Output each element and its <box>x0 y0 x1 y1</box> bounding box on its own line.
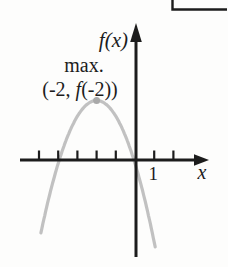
parabola-figure: f(x) max. (-2, f(-2)) 1 x <box>0 0 227 267</box>
axis-arrowheads <box>130 23 209 166</box>
x-axis-label: x <box>197 161 207 183</box>
x-tick-label-1: 1 <box>148 163 158 184</box>
max-annotation-line1: max. <box>64 54 103 76</box>
y-axis-arrowhead <box>130 23 142 42</box>
function-graph: f(x) max. (-2, f(-2)) 1 x <box>0 0 227 267</box>
axes <box>20 36 198 257</box>
y-axis-label: f(x) <box>99 28 128 52</box>
cropped-box-corner <box>173 0 228 10</box>
max-annotation-line2: (-2, f(-2)) <box>42 78 118 101</box>
parabola-curve <box>41 101 155 247</box>
